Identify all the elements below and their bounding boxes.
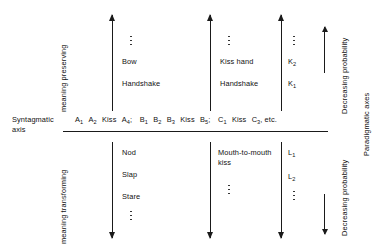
syntagmatic-item-sub: 2 bbox=[94, 119, 97, 125]
syntagmatic-item-base: ; bbox=[130, 115, 132, 124]
lower-entry-nod: Nod bbox=[122, 148, 136, 158]
upper-entry-handshake-1: Handshake bbox=[122, 79, 160, 89]
arrow-head-icon bbox=[207, 232, 213, 239]
syntagmatic-item: Kiss bbox=[232, 115, 246, 124]
ellipsis-lower-2 bbox=[227, 185, 231, 194]
paradigmatic-arrow-up-3 bbox=[277, 15, 286, 111]
decreasing-probability-label-lower: Decreasing probability bbox=[340, 160, 349, 236]
upper-entry-k2-sub: 2 bbox=[293, 61, 296, 67]
syntagmatic-item: A4 bbox=[122, 115, 130, 124]
lower-entry-l2: L2 bbox=[288, 172, 295, 184]
ellipsis-upper-2 bbox=[227, 36, 231, 45]
syntagmatic-item-sub: 2 bbox=[158, 119, 161, 125]
arrow-shaft bbox=[112, 15, 113, 111]
arrow-head-icon bbox=[322, 229, 328, 235]
arrow-shaft bbox=[281, 15, 282, 111]
upper-entry-k1-sub: 1 bbox=[293, 83, 296, 89]
upper-entry-bow: Bow bbox=[122, 57, 137, 67]
upper-entry-handshake-2: Handshake bbox=[220, 79, 258, 89]
arrow-shaft bbox=[324, 27, 325, 73]
syntagmatic-item: A1 bbox=[75, 115, 83, 124]
ellipsis-upper-3 bbox=[292, 36, 296, 45]
meaning-transforming-label: meaning transforming bbox=[59, 170, 68, 244]
syntagmatic-item: C1 bbox=[218, 115, 227, 124]
syntagmatic-item: B5 bbox=[200, 115, 208, 124]
syntagmatic-item: , etc. bbox=[260, 115, 277, 124]
syntagmatic-item-sub: 1 bbox=[223, 119, 226, 125]
paradigmatic-arrow-up-2 bbox=[206, 15, 215, 111]
arrow-head-icon bbox=[109, 232, 115, 239]
lower-entry-l1-sub: 1 bbox=[292, 152, 295, 158]
paradigmatic-arrow-down-3 bbox=[277, 142, 286, 238]
syntagmatic-sequence: A1 A2 Kiss A4; B1 B2 B3 Kiss B5; C1 Kiss… bbox=[75, 115, 277, 127]
arrow-shaft bbox=[324, 194, 325, 234]
lower-entry-l1: L1 bbox=[288, 148, 295, 160]
syntagmatic-item-base: Kiss bbox=[232, 115, 246, 124]
paradigmatic-arrow-up-1 bbox=[108, 15, 117, 111]
syntagmatic-axis-line bbox=[63, 131, 328, 132]
syntagmatic-item: ; bbox=[130, 115, 132, 124]
ellipsis-lower-3 bbox=[292, 191, 296, 200]
ellipsis-lower-1 bbox=[129, 211, 133, 220]
paradigmatic-arrow-down-2 bbox=[206, 142, 215, 238]
syntagmatic-axis-label-line1: Syntagmatic bbox=[12, 115, 54, 125]
ellipsis-upper-1 bbox=[129, 36, 133, 45]
syntagmatic-axis-label-line2: axis bbox=[12, 125, 26, 135]
syntagmatic-item-base: Kiss bbox=[180, 115, 194, 124]
paradigmatic-axes-label: Paradigmatic axes bbox=[362, 93, 371, 156]
arrow-shaft bbox=[281, 142, 282, 238]
syntagmatic-item: A2 bbox=[89, 115, 97, 124]
lower-entry-slap: Slap bbox=[122, 170, 137, 180]
syntagmatic-paradigmatic-diagram: meaning preserving meaning transforming … bbox=[0, 0, 374, 248]
syntagmatic-item: B2 bbox=[153, 115, 161, 124]
syntagmatic-item: Kiss bbox=[102, 115, 116, 124]
meaning-preserving-label: meaning preserving bbox=[59, 44, 68, 112]
syntagmatic-item-sub: 3 bbox=[172, 119, 175, 125]
arrow-shaft bbox=[210, 142, 211, 238]
syntagmatic-item: ; bbox=[208, 115, 210, 124]
decreasing-probability-arrow-up bbox=[321, 27, 328, 73]
arrow-head-icon bbox=[278, 232, 284, 239]
paradigmatic-arrow-down-1 bbox=[108, 142, 117, 238]
lower-entry-l2-sub: 2 bbox=[292, 176, 295, 182]
syntagmatic-item-base: ; bbox=[208, 115, 210, 124]
syntagmatic-item: B1 bbox=[140, 115, 148, 124]
decreasing-probability-arrow-down bbox=[321, 194, 328, 234]
upper-entry-k1: K1 bbox=[288, 79, 296, 91]
syntagmatic-item: B3 bbox=[167, 115, 175, 124]
arrow-shaft bbox=[210, 15, 211, 111]
upper-entry-kiss-hand: Kiss hand bbox=[220, 57, 253, 67]
syntagmatic-item-base: Kiss bbox=[102, 115, 116, 124]
arrow-shaft bbox=[112, 142, 113, 238]
syntagmatic-item-sub: 1 bbox=[80, 119, 83, 125]
lower-entry-mouth-to-mouth-kiss: Mouth-to-mouth kiss bbox=[218, 148, 284, 167]
syntagmatic-item-sub: 1 bbox=[145, 119, 148, 125]
decreasing-probability-label-upper: Decreasing probability bbox=[340, 38, 349, 114]
upper-entry-k2: K2 bbox=[288, 57, 296, 69]
lower-entry-stare: Stare bbox=[122, 192, 140, 202]
syntagmatic-item: Kiss bbox=[180, 115, 194, 124]
syntagmatic-item: C3 bbox=[252, 115, 261, 124]
syntagmatic-item-base: , etc. bbox=[260, 115, 277, 124]
